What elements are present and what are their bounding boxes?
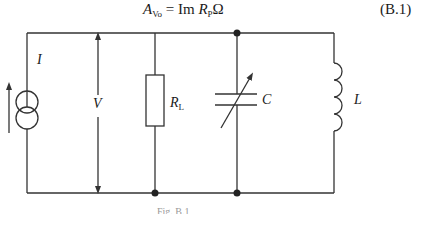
label-RL: RL [170, 95, 184, 112]
junction-dot-bottom-r [152, 190, 159, 197]
label-V: V [92, 96, 103, 112]
label-L: L [354, 92, 362, 108]
label-R-sub: L [179, 102, 185, 112]
label-R: R [170, 95, 179, 110]
resistor-icon [146, 75, 164, 126]
current-source-icon [16, 91, 38, 129]
inductor-icon [334, 63, 342, 131]
figure-caption: Fig. B.1 [157, 206, 190, 214]
label-C: C [262, 92, 271, 108]
label-I: I [37, 52, 42, 68]
junction-dot-bottom-c [234, 190, 241, 197]
variable-arrow-icon [221, 76, 251, 128]
junction-dot-top [234, 30, 241, 37]
